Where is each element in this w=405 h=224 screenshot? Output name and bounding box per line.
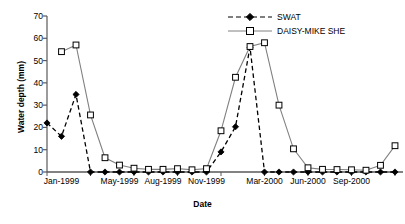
data-point-marker	[291, 146, 297, 152]
x-axis-tick-label: May-1999	[101, 176, 139, 186]
legend-label-daisy-mike-she: DAISY-MIKE SHE	[277, 26, 345, 36]
x-axis-tick-label: Jun-2000	[290, 176, 325, 186]
legend-key-dashed-diamond-icon	[228, 11, 272, 23]
data-point-marker	[349, 167, 355, 173]
data-point-marker	[377, 169, 383, 175]
y-axis-title: Water depth (mm)	[16, 32, 26, 162]
data-point-marker	[262, 40, 268, 46]
data-point-marker	[276, 169, 282, 175]
chart-legend: SWAT DAISY-MIKE SHE	[228, 10, 345, 38]
x-axis-tick-label: Jan-1999	[44, 176, 79, 186]
x-axis-tick-label: Mar-2000	[246, 176, 282, 186]
plot-canvas	[47, 16, 395, 172]
y-axis-tick-label: 10	[34, 145, 43, 155]
data-point-marker	[117, 162, 123, 168]
y-axis-tick-label: 20	[34, 122, 43, 132]
legend-key-solid-square-icon	[228, 25, 272, 37]
data-point-marker	[363, 167, 369, 173]
data-point-marker	[392, 143, 398, 149]
data-point-marker	[261, 169, 267, 175]
legend-label-swat: SWAT	[277, 12, 301, 22]
data-point-marker	[232, 124, 238, 130]
chart-figure: Water depth (mm) Date 010203040506070 Ja…	[0, 0, 405, 224]
series-line-1	[62, 43, 396, 170]
data-point-marker	[233, 74, 239, 80]
data-point-marker	[204, 166, 210, 172]
data-point-marker	[334, 167, 340, 173]
data-point-marker	[131, 165, 137, 171]
legend-item-daisy-mike-she: DAISY-MIKE SHE	[228, 24, 345, 38]
data-point-marker	[320, 166, 326, 172]
y-axis-tick-label: 70	[34, 11, 43, 21]
x-axis-title: Date	[0, 199, 405, 209]
x-axis-tick-label: Aug-1999	[145, 176, 182, 186]
data-point-marker	[116, 169, 122, 175]
y-axis-tick-label: 0	[38, 167, 43, 177]
data-point-marker	[392, 169, 398, 175]
data-point-marker	[378, 162, 384, 168]
data-point-marker	[305, 165, 311, 171]
plot-area: 010203040506070 Jan-1999May-1999Aug-1999…	[47, 16, 395, 172]
data-point-marker	[146, 166, 152, 172]
data-point-marker	[102, 169, 108, 175]
x-axis-tick-label: Sep-2000	[333, 176, 370, 186]
data-point-marker	[290, 169, 296, 175]
y-axis-tick-label: 30	[34, 100, 43, 110]
data-point-marker	[73, 91, 79, 97]
data-point-marker	[175, 166, 181, 172]
data-point-marker	[218, 128, 224, 134]
y-axis-tick-label: 60	[34, 33, 43, 43]
data-point-marker	[73, 42, 79, 48]
data-point-marker	[102, 155, 108, 161]
y-axis-tick-label: 50	[34, 56, 43, 66]
data-point-marker	[87, 169, 93, 175]
legend-item-swat: SWAT	[228, 10, 345, 24]
data-point-marker	[160, 166, 166, 172]
data-point-marker	[247, 44, 253, 50]
data-point-marker	[59, 49, 65, 55]
data-point-marker	[276, 102, 282, 108]
data-point-marker	[88, 112, 94, 118]
x-axis-tick-label: Nov-1999	[188, 176, 225, 186]
y-axis-tick-label: 40	[34, 78, 43, 88]
data-point-marker	[189, 167, 195, 173]
